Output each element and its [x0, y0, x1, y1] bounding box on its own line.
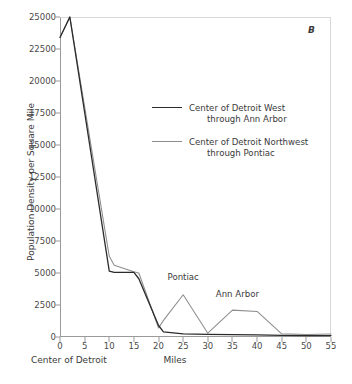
legend: Center of Detroit West through Ann Arbor… — [152, 103, 342, 170]
legend-entry-line2: through Pontiac — [189, 148, 308, 159]
legend-line-swatch-icon — [152, 103, 182, 112]
series-line — [60, 17, 331, 336]
legend-entry-line1: Center of Detroit West — [189, 103, 285, 113]
data-point-annotation: Ann Arbor — [216, 289, 259, 299]
legend-entry: Center of Detroit Northwest through Pont… — [152, 137, 342, 160]
data-point-annotation: Pontiac — [168, 272, 199, 282]
legend-entry: Center of Detroit West through Ann Arbor — [152, 103, 342, 126]
legend-entry-line2: through Ann Arbor — [189, 114, 287, 125]
series-line — [60, 17, 331, 334]
legend-line-swatch-icon — [152, 137, 182, 146]
series-lines — [0, 0, 352, 384]
legend-entry-label: Center of Detroit West through Ann Arbor — [189, 103, 287, 126]
legend-entry-line1: Center of Detroit Northwest — [189, 137, 308, 147]
legend-entry-label: Center of Detroit Northwest through Pont… — [189, 137, 308, 160]
chart-page: B Population Density per Square Mile Mil… — [0, 0, 352, 384]
